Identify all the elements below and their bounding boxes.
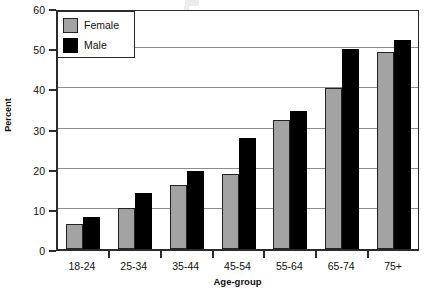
y-axis-tick: 50 [0, 44, 56, 56]
legend-entry-female: Female [63, 16, 119, 34]
bar-75plus-male [394, 40, 411, 249]
y-axis-tick-label: 30 [5, 125, 45, 137]
y-axis-tick: 30 [0, 125, 56, 137]
y-axis-tick-label: 0 [5, 245, 45, 257]
legend-label-female: Female [84, 19, 119, 31]
bar-18-24-female [66, 224, 83, 249]
y-axis-tick: 40 [0, 84, 56, 96]
y-axis-tick-label: 20 [5, 165, 45, 177]
legend-entry-male: Male [63, 36, 107, 54]
y-axis-tick-mark [49, 89, 56, 91]
y-axis-tick: 0 [0, 245, 56, 257]
bar-25-34-male [135, 193, 152, 249]
y-axis-tick-mark [49, 130, 56, 132]
bar-45-54-female [222, 174, 239, 249]
x-axis-tick-mark [160, 251, 162, 258]
bar-75plus-female [377, 52, 394, 249]
legend-label-male: Male [84, 39, 107, 51]
bar-45-54-male [239, 138, 256, 249]
x-axis-tick-mark [263, 251, 265, 258]
chart-legend: Female Male [57, 11, 135, 58]
y-axis-tick: 10 [0, 205, 56, 217]
x-axis-title: Age-group [56, 276, 419, 287]
y-axis-tick-label: 60 [5, 4, 45, 16]
x-axis-tick-mark [212, 251, 214, 258]
bar-35-44-female [170, 185, 187, 249]
bar-25-34-female [118, 208, 135, 249]
y-axis-tick-mark [49, 250, 56, 252]
bar-35-44-male [187, 171, 204, 249]
x-axis-tick-mark [315, 251, 317, 258]
y-axis-tick-mark [49, 170, 56, 172]
bar-18-24-male [83, 217, 100, 249]
legend-swatch-male [63, 38, 78, 53]
x-axis-tick-mark [108, 251, 110, 258]
y-axis-tick: 20 [0, 165, 56, 177]
y-axis-tick-label: 10 [5, 205, 45, 217]
x-axis-tick-mark [367, 251, 369, 258]
y-axis-tick-label: 40 [5, 84, 45, 96]
legend-swatch-female [63, 18, 78, 33]
y-axis-tick-mark [49, 49, 56, 51]
y-axis-tick: 60 [0, 4, 56, 16]
y-axis-tick-mark [49, 210, 56, 212]
bar-chart-figure: Percent 0102030405060 18-2425-3435-4445-… [0, 0, 433, 293]
y-axis-tick-mark [49, 9, 56, 11]
y-axis-tick-label: 50 [5, 44, 45, 56]
bar-65-74-male [342, 49, 359, 249]
x-axis-label-75plus: 75+ [363, 260, 423, 272]
bar-65-74-female [325, 88, 342, 249]
bar-55-64-male [290, 111, 307, 249]
bar-55-64-female [273, 120, 290, 249]
